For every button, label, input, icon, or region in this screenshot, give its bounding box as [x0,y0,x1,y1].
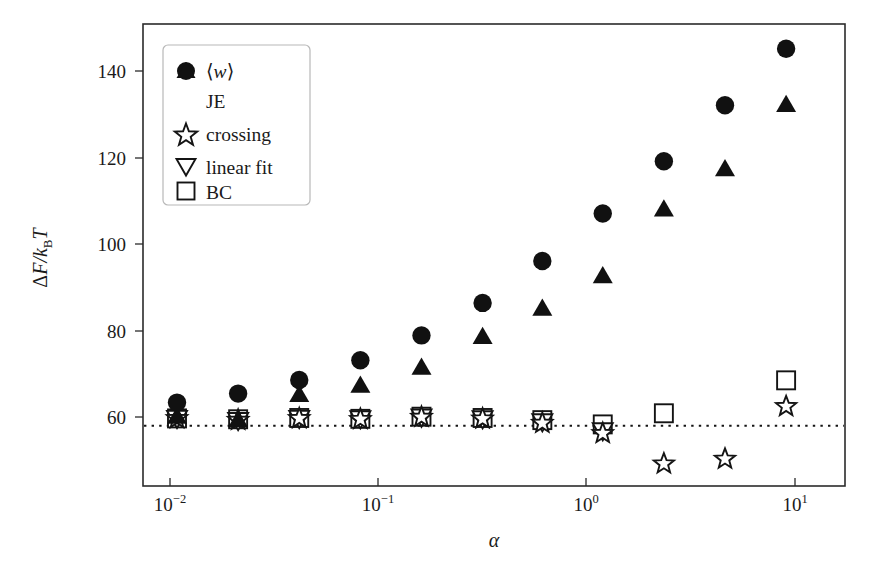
data-point-je [532,298,552,315]
data-point-w [533,252,551,270]
legend-label-mean-work: ⟨w⟩ [206,61,234,82]
x-tick-label-1-base: 10 [362,494,381,515]
data-point-je [411,357,431,374]
svg-text:10−1: 10−1 [362,492,394,515]
data-point-crossing [776,396,796,415]
data-point-w [473,294,491,312]
data-point-w [290,371,308,389]
y-axis-title-sub: B [40,239,55,248]
data-point-w [168,393,186,411]
y-tick-labels: 60 80 100 120 140 [98,61,127,428]
y-tick-marks [135,71,143,417]
x-tick-label-2-exp: 0 [592,492,598,506]
figure-container: 10−2 10−1 100 101 60 80 100 120 140 α ΔF… [0,0,882,579]
data-point-crossing [654,453,674,472]
data-point-je [473,327,493,344]
y-tick-label-100: 100 [98,234,127,255]
x-tick-label-0-base: 10 [154,494,173,515]
data-point-je [654,199,674,216]
x-axis-title: α [489,529,500,551]
legend-label-crossing: crossing [206,124,271,145]
x-tick-label-3-exp: 1 [801,492,807,506]
y-tick-label-80: 80 [107,321,126,342]
data-point-je [350,375,370,392]
square-open-icon [178,183,195,200]
y-axis-title: ΔF/kBT [29,226,55,287]
y-axis-title-main: F/k [29,247,51,276]
data-point-bc [777,371,795,389]
x-tick-label-2-base: 10 [573,494,592,515]
x-tick-label-3-base: 10 [782,494,801,515]
y-tick-label-120: 120 [98,148,127,169]
x-tick-labels: 10−2 10−1 100 101 [154,492,808,515]
data-point-w [229,384,247,402]
legend-label-je: JE [206,91,226,112]
data-point-w [655,152,673,170]
data-point-bc [655,404,673,422]
svg-text:100: 100 [573,492,598,515]
y-axis-title-delta: Δ [29,275,51,288]
y-tick-label-140: 140 [98,61,127,82]
data-point-je [776,95,796,112]
data-point-w [351,351,369,369]
data-point-w [716,96,734,114]
legend: ⟨w⟩ JE crossing linear fit BC [163,45,310,205]
x-tick-marks [170,478,795,486]
svg-text:101: 101 [782,492,807,515]
scatter-plot: 10−2 10−1 100 101 60 80 100 120 140 α ΔF… [0,0,882,579]
data-point-je [593,266,613,283]
y-tick-label-60: 60 [107,407,126,428]
data-point-crossing [715,448,735,467]
data-point-w [412,326,430,344]
data-point-w [594,204,612,222]
data-point-w [777,40,795,58]
x-tick-label-0-exp: −2 [173,492,186,506]
legend-label-bc: BC [206,182,232,203]
svg-text:10−2: 10−2 [154,492,186,515]
x-tick-label-1-exp: −1 [381,492,394,506]
y-axis-title-tail: T [29,226,51,239]
data-point-je [715,159,735,176]
legend-label-linear-fit: linear fit [206,157,273,178]
